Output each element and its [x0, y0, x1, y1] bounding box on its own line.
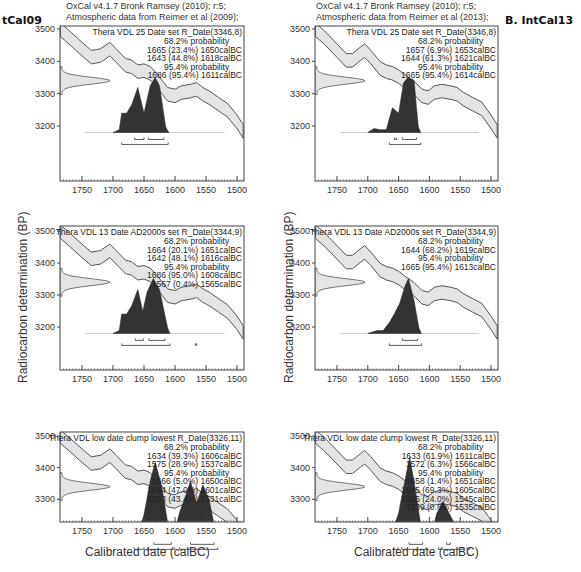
x-tick-label: 1700 [358, 526, 378, 536]
y-tick-label: 3200 [35, 121, 55, 131]
x-tick-label: 1700 [103, 526, 123, 536]
x-tick-label: 1550 [450, 526, 470, 536]
x-tick-label: 1600 [419, 374, 439, 384]
y-tick-label: 3300 [35, 494, 55, 504]
x-tick-label: 1650 [134, 185, 154, 195]
x-tick-label: 1500 [481, 526, 501, 536]
x-tick-label: 1750 [327, 526, 347, 536]
x-tick-label: 1600 [165, 185, 185, 195]
x-tick-label: 1750 [327, 374, 347, 384]
x-tick-label: 1700 [358, 374, 378, 384]
y-tick-label: 3400 [35, 258, 55, 268]
x-tick-label: 1500 [227, 185, 247, 195]
x-tick-label: 1700 [103, 374, 123, 384]
y-tick-label: 3200 [290, 322, 310, 332]
x-tick-label: 1500 [227, 526, 247, 536]
x-tick-label: 1500 [227, 374, 247, 384]
probability-range-text: 1593 (43.4%) 1531calBC [147, 494, 242, 504]
y-tick-label: 3400 [35, 56, 55, 66]
chart-panel-6: 350034003300175017001650160015501500Ther… [290, 430, 501, 549]
x-tick-label: 1500 [481, 374, 501, 384]
x-tick-label: 1550 [196, 185, 216, 195]
y-tick-label: 3300 [290, 494, 310, 504]
x-tick-label: 1500 [481, 185, 501, 195]
chart-panel-2: 3500340033003200175017001650160015501500… [35, 225, 247, 384]
x-tick-label: 1550 [196, 526, 216, 536]
calibration-plots: 3500340033003200175017001650160015501500… [0, 0, 581, 572]
y-tick-label: 3200 [290, 121, 310, 131]
x-tick-label: 1750 [327, 185, 347, 195]
x-tick-label: 1700 [358, 185, 378, 195]
x-tick-label: 1650 [389, 374, 409, 384]
y-tick-label: 3300 [35, 89, 55, 99]
probability-range-text: 1665 (95.4%) 1614calBC [401, 70, 496, 80]
y-tick-label: 3400 [290, 463, 310, 473]
y-tick-label: 3400 [290, 56, 310, 66]
x-tick-label: 1650 [134, 374, 154, 384]
y-tick-label: 3500 [290, 226, 310, 236]
x-tick-label: 1600 [165, 374, 185, 384]
chart-panel-5: 3500340033003200175017001650160015501500… [290, 225, 501, 384]
y-tick-label: 3500 [35, 226, 55, 236]
x-tick-label: 1650 [389, 526, 409, 536]
y-tick-label: 3300 [290, 290, 310, 300]
x-tick-label: 1550 [450, 374, 470, 384]
chart-panel-3: 350034003300175017001650160015501500Ther… [35, 430, 247, 549]
chart-panel-4: 3500340033003200175017001650160015501500… [290, 23, 501, 195]
x-tick-label: 1600 [419, 185, 439, 195]
x-tick-label: 1700 [103, 185, 123, 195]
x-tick-label: 1600 [165, 526, 185, 536]
probability-range-text: 1686 (95.4%) 1611calBC [148, 70, 242, 80]
x-tick-label: 1750 [72, 185, 92, 195]
x-tick-label: 1600 [419, 526, 439, 536]
x-tick-label: 1650 [389, 185, 409, 195]
y-tick-label: 3500 [35, 24, 55, 34]
probability-range-text: 1539 (0.6%) 1535calBC [406, 502, 496, 512]
y-tick-label: 3500 [290, 24, 310, 34]
x-tick-label: 1750 [72, 526, 92, 536]
y-tick-label: 3200 [35, 322, 55, 332]
y-tick-label: 3400 [35, 463, 55, 473]
y-tick-label: 3300 [35, 290, 55, 300]
probability-range-text: 1665 (95.4%) 1613calBC [401, 262, 496, 272]
probability-range-text: 1567 (0.4%) 1565calBC [152, 279, 242, 289]
x-tick-label: 1750 [72, 374, 92, 384]
x-tick-label: 1550 [450, 185, 470, 195]
y-tick-label: 3300 [290, 89, 310, 99]
chart-panel-1: 3500340033003200175017001650160015501500… [35, 23, 247, 195]
y-tick-label: 3400 [290, 258, 310, 268]
x-tick-label: 1550 [196, 374, 216, 384]
x-tick-label: 1650 [134, 526, 154, 536]
